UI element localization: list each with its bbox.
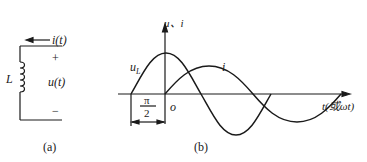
current-arrow-icon [26, 38, 33, 43]
origin-label: o [170, 101, 176, 113]
phase-numerator: π [144, 95, 150, 106]
y-axis-label: u、i [164, 18, 184, 29]
x-axis-label: t(或ωt) [322, 101, 354, 112]
x-axis-arrow-icon [342, 92, 350, 97]
current-label: i(t) [52, 34, 67, 46]
inductor-label: L [6, 73, 13, 85]
plus-sign: + [52, 52, 59, 64]
dimension-arrow-left-icon [132, 120, 139, 124]
voltage-curve-label: uL [130, 61, 140, 76]
dimension-arrow-right-icon [157, 120, 164, 124]
voltage-label: u(t) [48, 76, 65, 88]
waveform-b [118, 24, 350, 135]
inductor-coil-icon [20, 62, 25, 92]
caption-b: (b) [194, 141, 208, 153]
voltage-curve-label-subscript: L [136, 67, 140, 76]
caption-a: (a) [43, 141, 56, 153]
current-curve-label: i [222, 61, 225, 73]
minus-sign: − [52, 105, 59, 117]
phase-denominator: 2 [144, 108, 150, 119]
